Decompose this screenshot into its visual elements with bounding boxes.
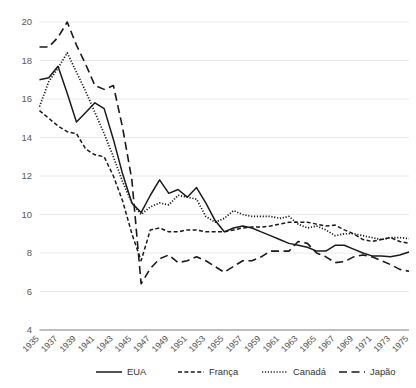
series-line-canad xyxy=(40,53,410,240)
series-line-eua xyxy=(40,66,410,257)
x-axis-tick-label: 1967 xyxy=(316,333,337,354)
x-axis-tick-label: 1949 xyxy=(150,333,171,354)
y-axis-tick-label: 12 xyxy=(21,170,32,181)
x-axis-tick-label: 1963 xyxy=(279,333,300,354)
y-axis-tick-labels: 201816141210864 xyxy=(21,16,32,335)
x-axis-tick-label: 1961 xyxy=(260,333,281,354)
x-axis-tick-label: 1945 xyxy=(113,333,134,354)
series-line-frana xyxy=(40,111,410,261)
y-axis-tick-label: 16 xyxy=(21,93,32,104)
chart-canvas: 201816141210864 193519371939194119431945… xyxy=(0,0,416,388)
legend-label-frana[interactable]: França xyxy=(209,366,239,377)
gridlines xyxy=(40,22,410,292)
series-line-japo xyxy=(40,22,410,284)
y-axis-tick-label: 4 xyxy=(27,324,32,335)
x-axis-tick-label: 1951 xyxy=(168,333,189,354)
data-series-group xyxy=(40,22,410,284)
y-axis-tick-label: 8 xyxy=(27,247,32,258)
x-axis-tick-label: 1955 xyxy=(205,333,226,354)
chart-legend: EUAFrançaCanadáJapão xyxy=(96,366,396,377)
x-axis-tick-label: 1959 xyxy=(242,333,263,354)
y-axis-tick-label: 14 xyxy=(21,132,32,143)
x-axis-tick-label: 1935 xyxy=(20,333,41,354)
x-axis-tick-label: 1941 xyxy=(76,333,97,354)
x-axis-tick-label: 1939 xyxy=(57,333,78,354)
y-axis-tick-label: 18 xyxy=(21,55,32,66)
x-axis-tick-label: 1953 xyxy=(187,333,208,354)
x-axis-tick-label: 1971 xyxy=(353,333,374,354)
x-axis-tick-label: 1973 xyxy=(371,333,392,354)
legend-label-eua[interactable]: EUA xyxy=(127,366,147,377)
line-chart: 201816141210864 193519371939194119431945… xyxy=(0,0,416,388)
y-axis-tick-label: 10 xyxy=(21,209,32,220)
x-axis-tick-label: 1947 xyxy=(131,333,152,354)
legend-label-canad[interactable]: Canadá xyxy=(293,366,327,377)
x-axis-tick-label: 1943 xyxy=(94,333,115,354)
x-axis-tick-label: 1975 xyxy=(390,333,411,354)
x-axis-tick-label: 1969 xyxy=(334,333,355,354)
legend-label-japo[interactable]: Japão xyxy=(370,366,396,377)
x-axis-tick-label: 1965 xyxy=(297,333,318,354)
y-axis-tick-label: 20 xyxy=(21,16,32,27)
x-axis-tick-label: 1937 xyxy=(39,333,60,354)
x-axis-tick-label: 1957 xyxy=(224,333,245,354)
x-axis-tick-labels: 1935193719391941194319451947194919511953… xyxy=(20,333,410,354)
y-axis-tick-label: 6 xyxy=(27,286,32,297)
